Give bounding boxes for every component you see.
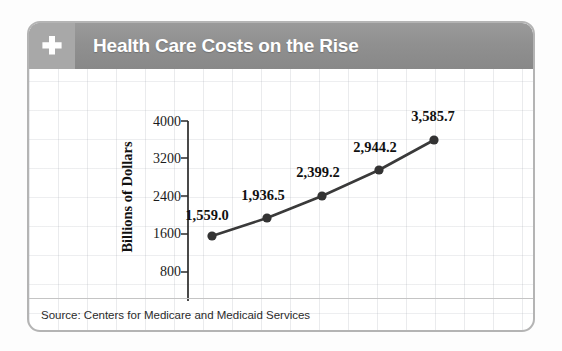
- y-tick-label: 4000: [153, 114, 181, 129]
- data-point-marker: [317, 191, 326, 200]
- data-point-label: 1,936.5: [241, 187, 285, 203]
- medical-cross-icon: [29, 23, 75, 69]
- data-point-marker: [262, 213, 271, 222]
- y-axis-title: Billions of Dollars: [119, 141, 135, 253]
- data-point-label: 3,585.7: [411, 108, 455, 124]
- y-tick-label: 800: [160, 264, 181, 279]
- chart-container: Billions of Dollars 4000 3200 2400 1600 …: [29, 69, 535, 301]
- page-background: Health Care Costs on the Rise Billions o…: [0, 0, 562, 351]
- card-footer: Source: Centers for Medicare and Medicai…: [29, 298, 533, 330]
- data-point-label: 2,399.2: [296, 164, 340, 180]
- data-point-marker: [207, 231, 216, 240]
- infographic-card: Health Care Costs on the Rise Billions o…: [27, 21, 535, 332]
- data-point-label: 1,559.0: [185, 207, 229, 223]
- data-point-marker: [374, 165, 383, 174]
- data-point-marker: [429, 135, 438, 144]
- page-title: Health Care Costs on the Rise: [93, 35, 359, 57]
- data-point-label: 2,944.2: [353, 139, 397, 155]
- y-tick-label: 1600: [153, 226, 181, 241]
- source-attribution: Source: Centers for Medicare and Medicai…: [41, 309, 310, 321]
- card-header: Health Care Costs on the Rise: [29, 23, 533, 69]
- y-tick-label: 2400: [153, 189, 181, 204]
- y-tick-label: 3200: [153, 151, 181, 166]
